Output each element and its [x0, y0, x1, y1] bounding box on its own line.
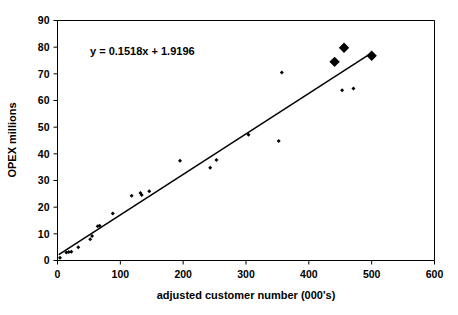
trendline-equation-label: y = 0.1518x + 1.9196: [90, 45, 195, 57]
y-tick-label: 50: [38, 121, 50, 133]
y-tick-label: 40: [38, 148, 50, 160]
x-tick-label: 300: [237, 268, 255, 280]
chart-canvas: 0100200300400500600 0102030405060708090 …: [0, 0, 458, 315]
y-axis-title: OPEX millions: [6, 102, 18, 177]
y-tick-label: 0: [44, 254, 50, 266]
y-tick-label: 20: [38, 201, 50, 213]
x-tick-label: 400: [300, 268, 318, 280]
y-tick-label: 30: [38, 174, 50, 186]
scatter-chart: 0100200300400500600 0102030405060708090 …: [0, 0, 458, 315]
x-tick-label: 200: [174, 268, 192, 280]
x-axis-title: adjusted customer number (000's): [157, 289, 336, 301]
x-tick-label: 100: [112, 268, 130, 280]
y-tick-label: 90: [38, 14, 50, 26]
y-tick-label: 10: [38, 228, 50, 240]
y-tick-label: 80: [38, 41, 50, 53]
x-tick-label: 0: [55, 268, 61, 280]
y-tick-label: 60: [38, 94, 50, 106]
chart-background: [0, 0, 458, 315]
x-tick-label: 500: [363, 268, 381, 280]
y-tick-label: 70: [38, 68, 50, 80]
x-tick-label: 600: [426, 268, 444, 280]
